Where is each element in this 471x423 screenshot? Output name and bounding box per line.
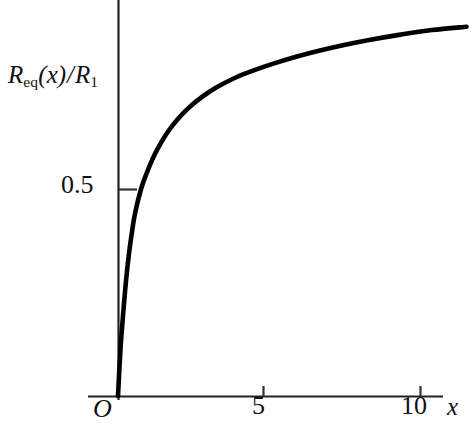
data-curve xyxy=(118,27,467,396)
x-tick-label-5: 5 xyxy=(252,393,265,419)
y-axis-label-subscript: eq xyxy=(23,73,38,90)
y-axis-label-argument: (x) xyxy=(38,61,66,88)
y-tick-label-0-5: 0.5 xyxy=(61,172,94,198)
origin-label: O xyxy=(93,396,112,422)
y-axis-label-symbol: R xyxy=(8,61,23,88)
figure-container: Req(x)/R1 0.5 O 5 10 x xyxy=(0,0,471,423)
x-tick-label-10: 10 xyxy=(401,393,427,419)
y-axis-label: Req(x)/R1 xyxy=(8,62,98,90)
x-axis-label: x xyxy=(447,394,458,419)
y-axis-label-divider: / xyxy=(66,61,75,88)
y-axis-label-denominator: R xyxy=(75,61,90,88)
y-axis-label-denominator-subscript: 1 xyxy=(90,73,98,90)
